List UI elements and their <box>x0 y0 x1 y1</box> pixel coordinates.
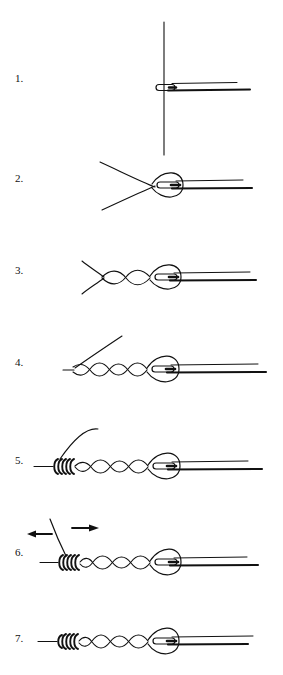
hook-shank-lower-line <box>170 280 256 281</box>
step-4-figure <box>63 336 266 382</box>
twist-chain-lower <box>73 364 147 376</box>
hook-shank-lower-line <box>168 90 250 91</box>
tight-coil <box>58 634 78 649</box>
step-6-figure <box>27 519 258 575</box>
loop-around-eye <box>148 628 179 654</box>
hook-eye <box>155 559 177 565</box>
hook-eye <box>155 274 177 280</box>
step-1-figure <box>156 22 250 155</box>
twist-chain-lower <box>102 271 150 285</box>
hook-eye <box>156 85 175 91</box>
tight-coil <box>59 555 79 570</box>
hook-eye <box>153 638 175 644</box>
hook-eye <box>153 463 175 469</box>
arrow-right <box>72 525 99 532</box>
twist-chain-lower <box>79 636 148 648</box>
instruction-sheet: 1. 2. 3. 4. 5. 6. 7. <box>0 0 283 675</box>
step-7-figure <box>38 628 253 654</box>
hook-shank-lower-line <box>168 469 262 470</box>
twist-chain-upper <box>80 556 150 568</box>
step-number-1: 1. <box>15 72 23 84</box>
hook-eye <box>157 182 179 188</box>
tag-end-line <box>102 186 155 210</box>
standing-line <box>82 261 104 277</box>
hook-shank-upper-line <box>172 83 237 84</box>
step-number-5: 5. <box>15 454 23 466</box>
arrow-left <box>27 531 52 538</box>
loop-around-eye <box>150 265 181 289</box>
twist-chain-upper <box>79 635 148 647</box>
tag-end-line-upper <box>60 428 97 459</box>
step-number-6: 6. <box>15 546 23 558</box>
loop-around-eye <box>147 356 179 382</box>
hook-shank-upper-line <box>174 272 250 273</box>
tag-end-line <box>75 336 122 368</box>
tag-end-line <box>82 278 104 294</box>
loop-around-eye <box>150 549 181 575</box>
hook-shank-upper-line <box>176 180 243 181</box>
hook-shank-upper-line <box>174 557 247 558</box>
hook-eye <box>152 366 174 372</box>
knot-diagram-artwork <box>0 0 283 675</box>
standing-line <box>100 162 155 187</box>
hook-shank-upper-line <box>171 364 258 365</box>
twist-chain-upper <box>102 270 150 284</box>
hook-shank-lower-line <box>170 565 258 566</box>
loop-around-eye <box>152 173 183 197</box>
step-number-2: 2. <box>15 172 23 184</box>
tag-end-line <box>60 429 98 459</box>
step-number-3: 3. <box>15 264 23 276</box>
step-5-figure <box>34 428 262 479</box>
step-number-4: 4. <box>15 356 23 368</box>
step-3-figure <box>82 261 256 294</box>
twist-chain-lower <box>75 461 148 473</box>
hook-shank-upper-line <box>172 461 248 462</box>
twist-chain-lower <box>80 557 150 569</box>
hook-shank-lower-line <box>167 372 266 373</box>
twist-chain-upper <box>75 460 148 472</box>
hook-shank-lower-line <box>168 644 248 645</box>
loop-around-eye <box>148 453 180 479</box>
hook-shank-upper-line <box>172 636 253 637</box>
hook-shank-lower-line <box>172 188 252 189</box>
tag-end-line <box>50 519 66 556</box>
tight-coil <box>54 459 74 474</box>
step-2-figure <box>100 162 252 210</box>
step-number-7: 7. <box>15 632 23 644</box>
twist-chain-upper <box>73 363 147 375</box>
